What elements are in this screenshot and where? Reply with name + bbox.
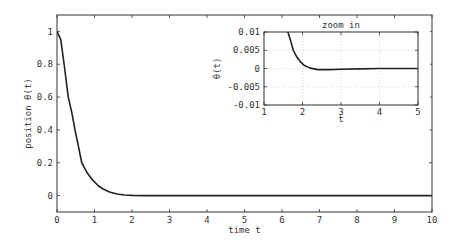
x-axis-label: time t — [228, 225, 261, 235]
y-tick-label: 0.6 — [37, 92, 53, 102]
x-tick-label: 0 — [54, 215, 59, 225]
x-tick-label: 9 — [392, 215, 397, 225]
y-tick-label: -0.01 — [233, 100, 260, 110]
x-tick-label: 3 — [167, 215, 172, 225]
plot-title: zoom in — [322, 20, 360, 30]
x-tick-label: 4 — [204, 215, 209, 225]
x-tick-label: 1 — [261, 107, 266, 117]
x-tick-label: 5 — [415, 107, 420, 117]
x-tick-label: 7 — [317, 215, 322, 225]
chart-figure: 01234567891000.20.40.60.81time tposition… — [0, 0, 457, 241]
inset-plot: 12345-0.01-0.00500.0050.01tθ(t)zoom in — [212, 17, 430, 130]
x-axis-label: t — [338, 114, 343, 124]
x-tick-label: 4 — [377, 107, 382, 117]
y-tick-label: 0 — [255, 64, 260, 74]
y-tick-label: 0.005 — [233, 45, 260, 55]
y-axis-label: position θ(t) — [23, 78, 33, 148]
x-tick-label: 5 — [242, 215, 247, 225]
x-tick-label: 2 — [300, 107, 305, 117]
x-tick-label: 6 — [279, 215, 284, 225]
x-tick-label: 10 — [427, 215, 438, 225]
y-tick-label: 0.4 — [37, 125, 53, 135]
y-tick-label: 0.01 — [238, 27, 260, 37]
y-tick-label: 1 — [48, 27, 53, 37]
x-tick-label: 1 — [92, 215, 97, 225]
y-tick-label: 0.8 — [37, 59, 53, 69]
x-tick-label: 2 — [129, 215, 134, 225]
y-tick-label: 0.2 — [37, 158, 53, 168]
x-tick-label: 8 — [354, 215, 359, 225]
y-tick-label: -0.005 — [227, 82, 260, 92]
y-tick-label: 0 — [48, 191, 53, 201]
y-axis-label: θ(t) — [212, 58, 222, 80]
